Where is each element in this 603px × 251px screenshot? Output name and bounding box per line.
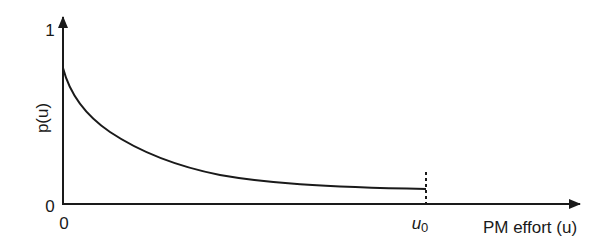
- p-curve: [63, 68, 426, 189]
- x-tick-u0: u0: [412, 214, 429, 235]
- x-axis-label: PM effort (u): [483, 218, 577, 237]
- y-tick-1: 1: [45, 21, 54, 40]
- y-axis-label: p(u): [33, 103, 52, 133]
- y-tick-0: 0: [45, 197, 54, 216]
- x-tick-0: 0: [59, 214, 68, 233]
- chart: 1 0 0 u0 PM effort (u) p(u): [0, 0, 603, 251]
